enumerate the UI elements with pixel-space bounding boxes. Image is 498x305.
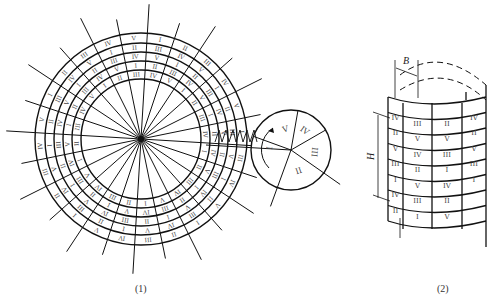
band-label: V [165, 76, 173, 85]
band-label: II [52, 191, 61, 199]
band-label: I [180, 86, 187, 93]
band-label: III [40, 167, 49, 177]
band-label: II [60, 68, 69, 77]
row-line [388, 97, 486, 104]
band-label: V [113, 65, 121, 74]
sector-label: III [310, 147, 320, 157]
band-label: II [58, 162, 66, 169]
band-label: V [63, 141, 70, 147]
cell-label: II [393, 207, 399, 215]
band-label: II [72, 140, 79, 146]
band-label: IV [209, 149, 217, 158]
cell-label: I [394, 176, 397, 184]
band-label: III [120, 216, 129, 224]
cell-label: IV [470, 114, 479, 122]
band-label: II [91, 66, 99, 75]
band-label: II [47, 118, 55, 125]
cell-label: IV [443, 182, 452, 190]
band-label: V [144, 227, 150, 234]
band-label: I [121, 226, 125, 233]
band-label: I [207, 113, 215, 118]
band-label: II [152, 62, 159, 70]
band-label: II [70, 102, 79, 110]
band-label: IV [66, 158, 75, 167]
band-label: I [193, 184, 200, 191]
band-label: IV [149, 71, 158, 79]
cell-label: II [444, 197, 450, 205]
band-label: IV [55, 119, 63, 128]
band-label: I [68, 182, 75, 188]
band-label: III [198, 113, 207, 123]
cell-label: V [414, 135, 421, 143]
band-label: V [62, 99, 71, 107]
band-label: I [220, 177, 228, 183]
band-label: II [116, 73, 123, 81]
band-label: IV [202, 131, 210, 139]
cell-label: II [471, 129, 477, 137]
band-label: I [201, 150, 208, 154]
cell-label: V [470, 145, 477, 153]
band-label: I [214, 85, 221, 91]
band-label: I [158, 36, 162, 43]
cell-label: V [443, 213, 450, 221]
band-label: III [54, 140, 62, 148]
cell-label: V [392, 145, 399, 153]
dimension-h-label: H [365, 152, 376, 161]
band-label: V [124, 208, 131, 216]
dimension-b-label: B [403, 55, 409, 66]
band-label: II [97, 217, 105, 226]
band-label: IV [227, 179, 237, 189]
band-label: IV [104, 38, 113, 47]
band-label: IV [166, 222, 175, 231]
cell-label: V [414, 182, 421, 190]
band-label: II [218, 152, 226, 159]
band-label: V [227, 153, 235, 160]
cell-label: III [391, 160, 400, 168]
band-label: II [182, 44, 190, 53]
band-label: III [109, 56, 119, 65]
band-label: I [65, 123, 72, 127]
band-label: II [170, 231, 177, 239]
band-label: IV [36, 142, 44, 150]
cell-label: III [413, 197, 422, 205]
caption-panel-2: (2) [437, 283, 449, 294]
cell-label: III [413, 120, 422, 128]
band-label: III [160, 204, 170, 213]
band-label: II [125, 199, 132, 207]
band-label: V [50, 165, 59, 173]
band-label: I [76, 157, 84, 162]
band-label: V [93, 226, 101, 235]
center-hub [138, 136, 144, 142]
band-label: V [130, 34, 136, 41]
band-label: I [109, 48, 114, 56]
band-label: III [144, 237, 152, 245]
cell-label: V [443, 135, 450, 143]
band-label: III [154, 45, 163, 53]
band-label: V [233, 102, 242, 110]
cell-label: IV [414, 151, 423, 159]
cell-label: I [446, 166, 449, 174]
cell-label: III [470, 160, 479, 168]
cell-label: III [443, 151, 452, 159]
band-label: I [71, 212, 78, 219]
top-rim-dashed [400, 62, 486, 85]
band-label: I [194, 220, 200, 227]
band-label: I [46, 143, 53, 146]
inner-rim-dashed [400, 78, 486, 100]
band-label: II [195, 164, 204, 172]
cell-label: IV [392, 114, 401, 122]
diagram-canvas: IIVIIVIIIIIVIIIIIVIIIIIVIIVIVIIVIIIIVIII… [0, 0, 498, 305]
cell-label: IV [392, 191, 401, 199]
band-label: V [203, 167, 212, 175]
band-label: I [134, 62, 137, 69]
caption-panel-1: (1) [135, 283, 147, 294]
band-label: I [105, 202, 111, 210]
band-label: I [175, 61, 181, 69]
band-label: II [144, 218, 150, 225]
cell-label: I [416, 213, 419, 221]
cell-label: I [473, 176, 476, 184]
cell-label: II [444, 120, 450, 128]
band-label: IV [132, 52, 140, 60]
band-label: III [133, 70, 141, 78]
band-label: V [37, 116, 45, 123]
